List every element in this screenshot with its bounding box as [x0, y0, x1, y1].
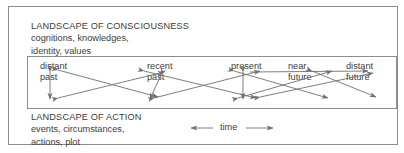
action-title: LANDSCAPE OF ACTION	[31, 111, 331, 123]
arrow-network	[28, 57, 398, 110]
action-line-2: actions, plot	[31, 136, 331, 148]
time-axis: time	[189, 121, 275, 135]
action-line-1: events, circumstances,	[31, 123, 331, 135]
distant-past-line-1: distant	[40, 61, 67, 72]
timeline-label-recent-past: recent past	[147, 61, 173, 82]
timeline-label-near-future: near future	[288, 61, 312, 82]
distant-future-line-1: distant	[346, 61, 373, 72]
recent-past-line-2: past	[147, 72, 173, 83]
time-label: time	[220, 121, 237, 134]
outer-frame: LANDSCAPE OF CONSCIOUSNESS cognitions, k…	[8, 6, 398, 145]
timeline-label-distant-past: distant past	[40, 61, 67, 82]
arrow-diagonal-6	[238, 71, 332, 98]
arrow-diagonal-1	[58, 70, 158, 97]
diagram-canvas: LANDSCAPE OF CONSCIOUSNESS cognitions, k…	[0, 0, 404, 153]
consciousness-line-1: cognitions, knowledges,	[31, 32, 331, 44]
present-line-1: present	[231, 61, 262, 72]
arrow-diagonal-5	[234, 71, 328, 98]
timeline-label-distant-future: distant future	[346, 61, 373, 82]
landscape-of-consciousness-block: LANDSCAPE OF CONSCIOUSNESS cognitions, k…	[31, 20, 331, 57]
consciousness-title: LANDSCAPE OF CONSCIOUSNESS	[31, 20, 331, 32]
near-future-line-1: near	[288, 61, 312, 72]
recent-past-line-1: recent	[147, 61, 173, 72]
distant-future-line-2: future	[346, 72, 373, 83]
landscape-of-action-block: LANDSCAPE OF ACTION events, circumstance…	[31, 111, 331, 148]
distant-past-line-2: past	[40, 72, 67, 83]
timeline-box: distant past recent past present near fu…	[27, 56, 397, 109]
timeline-label-present: present	[231, 61, 262, 72]
near-future-line-2: future	[288, 72, 312, 83]
